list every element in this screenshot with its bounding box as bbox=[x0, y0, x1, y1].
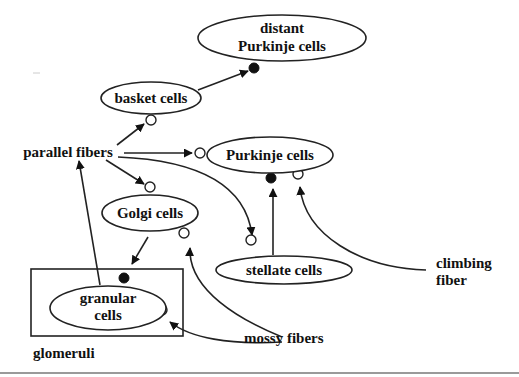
edge-parallel-to-golgi bbox=[106, 160, 144, 184]
node-basket-cells: basket cells bbox=[101, 82, 201, 114]
node-stellate-cells: stellate cells bbox=[216, 256, 352, 284]
parallel-fibers-label: parallel fibers bbox=[23, 144, 113, 160]
golgi-cells-label: Golgi cells bbox=[117, 205, 183, 221]
edge-parallel-to-basket bbox=[117, 124, 144, 145]
mossy-fibers-label: mossy fibers bbox=[244, 330, 324, 346]
node-purkinje-cells: Purkinje cells bbox=[207, 137, 333, 173]
basket-cells-label: basket cells bbox=[115, 90, 188, 106]
node-golgi-cells: Golgi cells bbox=[102, 195, 198, 231]
granular-cells-label-line2: cells bbox=[94, 307, 122, 323]
cerebellum-circuit-diagram: distant Purkinje cells basket cells para… bbox=[0, 0, 519, 377]
distant-purkinje-label-line2: Purkinje cells bbox=[238, 38, 326, 54]
synapse-excitatory-basket bbox=[146, 115, 156, 125]
edge-basket-to-distant-purkinje bbox=[198, 71, 248, 90]
synapse-excitatory-purkinje bbox=[195, 148, 205, 158]
synapse-excitatory-stellate bbox=[246, 235, 256, 245]
climbing-fiber-label-line1: climbing bbox=[436, 255, 492, 271]
edge-granular-to-parallel bbox=[79, 161, 100, 285]
glomeruli-label: glomeruli bbox=[33, 345, 95, 361]
edge-golgi-to-granular bbox=[132, 237, 148, 264]
distant-purkinje-label-line1: distant bbox=[260, 20, 304, 36]
climbing-fiber-label-line2: fiber bbox=[436, 272, 467, 288]
granular-cells-label-line1: granular bbox=[80, 290, 137, 306]
synapse-inhibitory-distant-purkinje bbox=[249, 63, 259, 73]
stellate-cells-label: stellate cells bbox=[246, 262, 322, 278]
synapse-excitatory-golgi bbox=[145, 182, 155, 192]
synapse-inhibitory-purkinje bbox=[266, 173, 276, 183]
node-distant-purkinje: distant Purkinje cells bbox=[198, 15, 366, 61]
purkinje-cells-label: Purkinje cells bbox=[226, 147, 314, 163]
synapse-inhibitory-granular bbox=[119, 273, 129, 283]
synapse-excitatory-golgi-mossy bbox=[179, 228, 189, 238]
